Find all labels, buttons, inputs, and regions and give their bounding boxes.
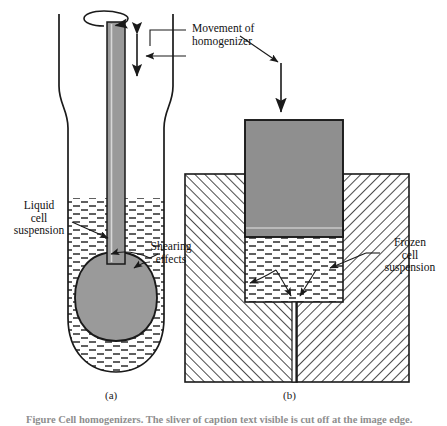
frozen-cell-suspension-fill: [245, 237, 343, 302]
panel-b: [185, 36, 409, 382]
rotation-arrow: [84, 11, 128, 26]
panel-label-b: (b): [283, 389, 296, 401]
label-shearing-line2: effects: [156, 253, 186, 265]
panel-a: [55, 11, 186, 378]
panel-label-a: (a): [105, 389, 117, 401]
figure-caption: Figure Cell homogenizers. The sliver of …: [26, 414, 436, 426]
movement-leader-a: [150, 30, 186, 46]
pestle-bulb: [75, 252, 157, 341]
label-frozen-cell-suspension: Frozen cell suspension: [378, 236, 442, 274]
label-liquid-cell-suspension: Liquid cell suspension: [8, 199, 70, 237]
label-shearing-line1: Shearing: [151, 240, 192, 252]
plunger: [245, 120, 343, 237]
label-liquid-line1: Liquid: [24, 199, 55, 211]
label-liquid-line3: suspension: [14, 224, 64, 236]
orifice-slit: [292, 302, 296, 382]
label-movement-line2: homogenizer: [192, 35, 252, 47]
label-movement-of-homogenizer: Movement of homogenizer: [192, 22, 254, 47]
label-movement-line1: Movement of: [192, 22, 254, 34]
label-shearing-effects: Shearing effects: [144, 240, 198, 265]
pestle-shaft: [107, 22, 125, 264]
label-frozen-line2: cell: [402, 249, 419, 261]
label-frozen-line3: suspension: [385, 261, 435, 273]
label-liquid-line2: cell: [31, 212, 48, 224]
label-frozen-line1: Frozen: [394, 236, 426, 248]
